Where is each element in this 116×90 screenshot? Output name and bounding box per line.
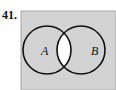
label-a: A [40, 44, 49, 58]
venn-diagram: A B [0, 0, 116, 90]
label-b: B [91, 44, 99, 58]
